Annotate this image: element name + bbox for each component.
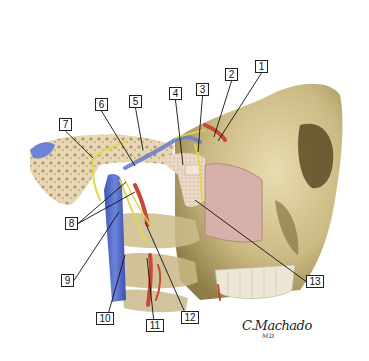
callout-label-1: 1 [255, 60, 268, 73]
callout-label-11: 11 [146, 319, 164, 332]
internal-jugular-vein [104, 174, 126, 302]
signature-text: C.Machado [242, 318, 312, 333]
callout-label-10: 10 [96, 312, 114, 325]
temporal-bone [30, 134, 175, 205]
artist-signature: C.Machado M.D. [242, 318, 312, 333]
callout-label-7: 7 [59, 118, 72, 131]
callout-label-8: 8 [65, 217, 78, 230]
callout-label-4: 4 [169, 87, 182, 100]
anatomy-figure: 12345678910111213 C.Machado M.D. [0, 0, 369, 361]
callout-label-6: 6 [95, 98, 108, 111]
callout-label-2: 2 [225, 68, 238, 81]
callout-label-3: 3 [196, 83, 209, 96]
maxillary-sinus [205, 164, 262, 242]
skull-illustration [0, 0, 369, 361]
callout-label-5: 5 [129, 95, 142, 108]
callout-label-9: 9 [61, 274, 74, 287]
callout-label-13: 13 [306, 275, 324, 288]
callout-label-12: 12 [181, 311, 199, 324]
signature-suffix: M.D. [262, 332, 275, 339]
maxillary-teeth [215, 265, 295, 299]
